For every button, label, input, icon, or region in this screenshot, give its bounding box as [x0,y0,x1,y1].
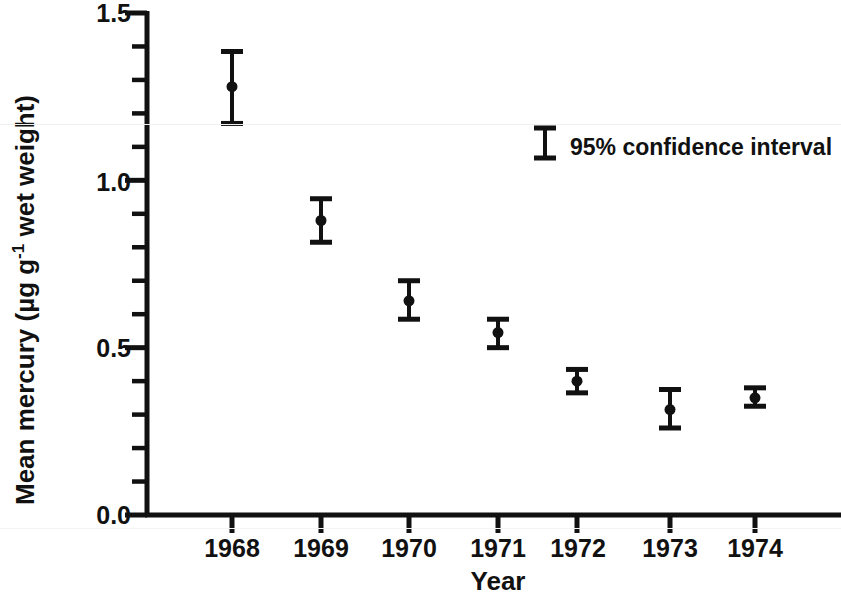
y-axis-major-ticks [125,13,147,515]
y-tick-label-1.0: 1.0 [96,168,131,196]
y-axis-title-group: Mean mercury (µg g-1 wet weight) [9,95,40,505]
svg-text:Mean mercury (µg g-1 wet weig: Mean mercury (µg g-1 wet weight) [9,95,40,505]
legend-errorbar-symbol [534,127,556,159]
y-tick-label-0.0: 0.0 [96,501,131,529]
data-point-1968 [221,51,243,123]
marker-1972 [572,376,583,387]
x-tick-label-1973: 1973 [642,534,698,562]
x-axis-title: Year [471,566,526,596]
marker-1973 [665,404,676,415]
x-axis-tick-labels: 1968 1969 1970 1971 1972 1973 1974 [204,534,783,562]
figure-container: 1.5 1.0 0.5 0.0 1968 1969 1970 1971 1972… [0,0,841,597]
y-axis-title-prefix: Mean mercury (µg g [10,259,40,505]
x-tick-label-1968: 1968 [204,534,260,562]
y-tick-label-0.5: 0.5 [96,334,131,362]
x-axis-ticks [232,515,755,533]
data-point-1970 [398,281,420,319]
x-tick-label-1970: 1970 [381,534,437,562]
data-point-1974 [744,388,766,406]
mercury-vs-year-chart: 1.5 1.0 0.5 0.0 1968 1969 1970 1971 1972… [0,0,841,597]
marker-1971 [493,327,504,338]
legend: 95% confidence interval [534,127,832,160]
data-series-mercury [221,51,766,428]
data-point-1971 [487,319,509,347]
x-tick-label-1969: 1969 [293,534,349,562]
y-tick-label-1.5: 1.5 [96,0,131,27]
data-point-1972 [566,369,588,392]
x-tick-label-1974: 1974 [727,534,783,562]
x-tick-label-1971: 1971 [470,534,526,562]
axis-lines [145,11,841,517]
data-point-1969 [310,199,332,243]
data-point-1973 [659,390,681,428]
x-tick-label-1972: 1972 [550,534,606,562]
legend-label-confidence-interval: 95% confidence interval [570,134,832,160]
y-axis-title-superscript: -1 [9,244,28,259]
y-axis-tick-labels: 1.5 1.0 0.5 0.0 [96,0,131,529]
marker-1969 [316,215,327,226]
marker-1970 [404,295,415,306]
marker-1974 [750,392,761,403]
marker-1968 [227,81,238,92]
y-axis-title-suffix: wet weight) [10,95,40,244]
